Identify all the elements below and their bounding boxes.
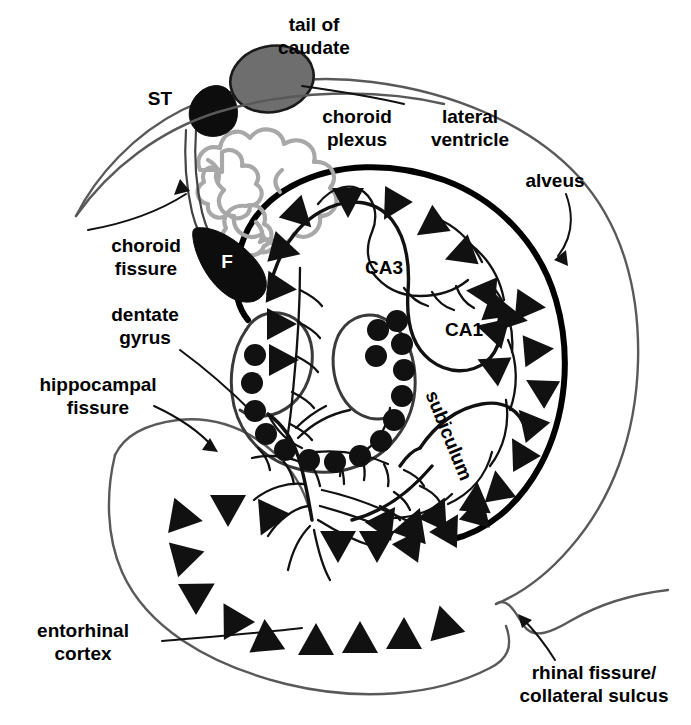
label-hippocampal-fissure: hippocampal fissure [39,374,156,418]
label-choroid-plexus: choroid plexus [322,106,392,150]
label-ca3: CA3 [365,257,403,278]
label-tail-of-caudate-line2: caudate [278,37,350,58]
label-fimbria: F [221,251,233,272]
label-choroid-fissure: choroid fissure [111,235,181,279]
hippocampus-diagram: tail of caudate ST choroid plexus latera… [0,0,691,725]
label-dentate-gyrus-line2: gyrus [119,327,171,348]
label-lateral-ventricle: lateral ventricle [431,106,509,150]
label-entorhinal-cortex-line2: cortex [54,643,111,664]
label-choroid-fissure-line2: fissure [115,258,177,279]
label-lateral-ventricle-line2: ventricle [431,129,509,150]
label-rhinal-fissure-line2: collateral sulcus [520,685,669,706]
diagram-canvas: tail of caudate ST choroid plexus latera… [0,0,691,725]
label-ca1: CA1 [445,319,483,340]
label-rhinal-fissure-line1: rhinal fissure/ [532,662,657,683]
label-hippocampal-fissure-line2: fissure [67,397,129,418]
label-tail-of-caudate-line1: tail of [289,14,340,35]
stria-terminalis-blob [189,86,237,137]
label-alveus: alveus [525,170,584,191]
label-lateral-ventricle-line1: lateral [442,106,498,127]
label-hippocampal-fissure-line1: hippocampal [39,374,156,395]
hippocampal-fissure-arrowhead [202,438,218,452]
label-rhinal-fissure: rhinal fissure/ collateral sulcus [520,662,669,706]
label-entorhinal-cortex: entorhinal cortex [37,620,129,664]
label-choroid-plexus-line2: plexus [327,129,387,150]
entorhinal-pyramidal-cells [168,495,465,655]
label-st: ST [148,88,173,109]
label-dentate-gyrus-line1: dentate [111,304,179,325]
entorhinal-lower-outline [109,455,509,694]
label-entorhinal-cortex-line1: entorhinal [37,620,129,641]
label-choroid-plexus-line1: choroid [322,106,392,127]
label-dentate-gyrus: dentate gyrus [111,304,179,348]
label-tail-of-caudate: tail of caudate [278,14,350,58]
label-choroid-fissure-line1: choroid [111,235,181,256]
